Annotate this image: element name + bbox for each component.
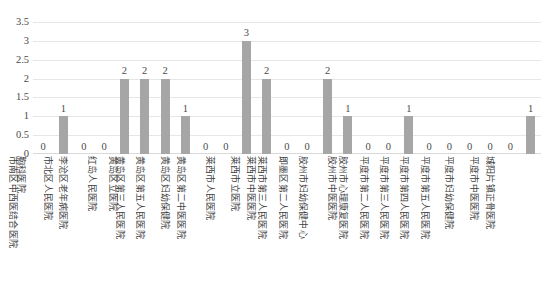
bar-slot: 1 <box>338 22 358 154</box>
x-axis-category-label: 胶州市中医医院 <box>327 156 336 220</box>
x-axis-category-label: 莱西市第三人民医院 <box>257 156 266 239</box>
bar-slot: 2 <box>135 22 155 154</box>
x-axis-category-label: 平度市第三人民医院 <box>379 156 388 239</box>
bar-slot: 2 <box>114 22 134 154</box>
bar-slot: 1 <box>53 22 73 154</box>
bar-value-label: 0 <box>203 142 208 153</box>
bar-value-label: 0 <box>366 142 371 153</box>
bar-slot: 0 <box>419 22 439 154</box>
bar-value-label: 0 <box>223 142 228 153</box>
bar-value-label: 1 <box>345 104 350 115</box>
bar-slot: 0 <box>74 22 94 154</box>
bar-slot: 0 <box>378 22 398 154</box>
bar-value-label: 0 <box>447 142 452 153</box>
bar-value-label: 0 <box>426 142 431 153</box>
bar-value-label: 0 <box>41 142 46 153</box>
x-axis-category-label: 红岛人民医院 <box>88 156 97 211</box>
x-axis-category-label: 平度市中医医院 <box>469 156 478 220</box>
bar <box>343 116 352 154</box>
bar-slot: 1 <box>521 22 541 154</box>
bar-value-label: 0 <box>467 142 472 153</box>
x-axis-category-label: 莱西市人民医院 <box>205 156 214 220</box>
bar-value-label: 1 <box>528 104 533 115</box>
x-axis-category-label: 城阳片镇正骨医院 <box>485 156 494 230</box>
bar-slot: 0 <box>277 22 297 154</box>
x-axis-category-label: 即墨区第二人民医院 <box>277 156 286 239</box>
y-axis-tick-label: 3 <box>24 36 29 47</box>
y-axis-tick-label: 2.5 <box>16 54 29 65</box>
bar-slot: 0 <box>480 22 500 154</box>
bar <box>120 79 129 154</box>
plot-area: 0100222100320021001000001 <box>33 22 541 154</box>
bar-slot: 0 <box>94 22 114 154</box>
bar-value-label: 1 <box>406 104 411 115</box>
bar-value-label: 0 <box>81 142 86 153</box>
bar-slot: 0 <box>33 22 53 154</box>
y-axis-tick-label: 0.5 <box>16 130 29 141</box>
bar-slot: 0 <box>216 22 236 154</box>
bar-value-label: 0 <box>487 142 492 153</box>
bar <box>59 116 68 154</box>
y-axis-tick-label: 3.5 <box>16 17 29 28</box>
bar-value-label: 1 <box>183 104 188 115</box>
x-label-slot: 城阳片镇正骨医院 <box>521 156 541 299</box>
bar <box>262 79 271 154</box>
y-axis-tick-label: 1 <box>24 111 29 122</box>
bar-slot: 1 <box>399 22 419 154</box>
bar-value-label: 3 <box>244 28 249 39</box>
bar-slot: 3 <box>236 22 256 154</box>
bar <box>526 116 535 154</box>
bar-value-label: 1 <box>61 104 66 115</box>
bar-slot: 1 <box>175 22 195 154</box>
bar-slot: 0 <box>460 22 480 154</box>
bar-slot: 0 <box>439 22 459 154</box>
bar-slot: 0 <box>196 22 216 154</box>
x-label-slot: 平度市中医医院 <box>500 156 520 299</box>
x-axis-category-label: 胶州市心理康复医院 <box>338 156 347 239</box>
bar-value-label: 2 <box>264 66 269 77</box>
x-axis-category-label: 平度市妇幼保健院 <box>444 156 453 230</box>
x-axis-category-label: 平度市第二人民医院 <box>358 156 367 239</box>
bars-container: 0100222100320021001000001 <box>33 22 541 154</box>
bar-slot: 0 <box>500 22 520 154</box>
bar-value-label: 2 <box>325 66 330 77</box>
x-axis-category-label: 黄岛区第五人民医院 <box>135 156 144 239</box>
bar-slot: 2 <box>256 22 276 154</box>
bar <box>181 116 190 154</box>
bar <box>323 79 332 154</box>
x-axis-labels: 胸科医院市南区中西医结合医院市北区人民医院李沧区老年病医院红岛人民医院黄岛区立医… <box>33 156 541 299</box>
bar-value-label: 0 <box>386 142 391 153</box>
bar-slot: 0 <box>297 22 317 154</box>
x-axis-category-label: 市南区中西医结合医院 <box>8 156 17 248</box>
bar-slot: 2 <box>317 22 337 154</box>
y-axis-tick-label: 2 <box>24 73 29 84</box>
bar-value-label: 0 <box>284 142 289 153</box>
x-axis-category-label: 黄岛区第二中医医院 <box>176 156 185 239</box>
x-axis-category-label: 平度市第五人民医院 <box>419 156 428 239</box>
bar-slot: 0 <box>358 22 378 154</box>
bar-value-label: 2 <box>122 66 127 77</box>
bar-value-label: 0 <box>305 142 310 153</box>
bar-value-label: 2 <box>142 66 147 77</box>
bar-value-label: 2 <box>162 66 167 77</box>
x-axis-category-label: 莱西市中医医院 <box>246 156 255 220</box>
bar <box>161 79 170 154</box>
y-axis: 00.511.522.533.5 <box>0 22 29 154</box>
bar-chart: 00.511.522.533.5 01002221003200210010000… <box>0 0 547 299</box>
x-axis-category-label: 市北区人民医院 <box>43 156 52 220</box>
x-axis-category-label: 平度市第四人民医院 <box>399 156 408 239</box>
bar-slot: 2 <box>155 22 175 154</box>
bar <box>242 41 251 154</box>
bar <box>140 79 149 154</box>
x-axis-category-label: 黄岛区第三人民医院 <box>115 156 124 239</box>
x-axis-category-label: 胶州市妇幼保健中心 <box>297 156 306 239</box>
x-axis-category-label: 李沧区老年病医院 <box>58 156 67 230</box>
y-axis-tick-label: 1.5 <box>16 92 29 103</box>
bar <box>404 116 413 154</box>
x-axis-category-label: 莱西市立医院 <box>230 156 239 211</box>
bar-value-label: 0 <box>508 142 513 153</box>
x-axis-category-label: 黄岛区妇幼保健院 <box>160 156 169 230</box>
bar-value-label: 0 <box>101 142 106 153</box>
